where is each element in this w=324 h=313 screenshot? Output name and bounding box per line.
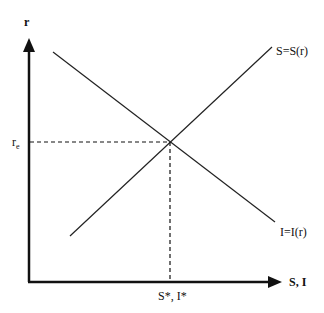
savings-curve-label: S=S(r): [276, 45, 308, 57]
equilibrium-r-label: re: [12, 136, 20, 151]
y-axis-label: r: [24, 16, 29, 28]
investment-curve: [53, 52, 275, 222]
y-axis: [23, 38, 35, 282]
y-axis-arrow-icon: [23, 38, 35, 52]
x-axis: [28, 276, 282, 288]
investment-curve-label: I=I(r): [280, 226, 307, 238]
equilibrium-si-label: S*, I*: [158, 290, 187, 302]
r-sub: e: [16, 142, 20, 151]
x-axis-arrow-icon: [268, 276, 282, 288]
x-axis-label: S, I: [289, 276, 306, 288]
